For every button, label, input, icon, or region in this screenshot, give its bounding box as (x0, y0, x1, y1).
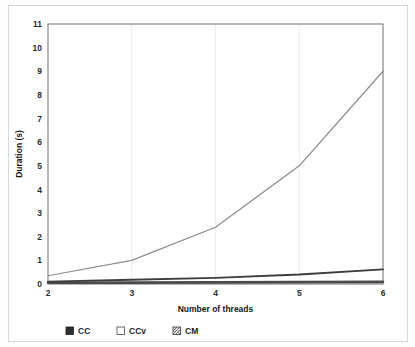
y-tick-7: 7 (37, 114, 42, 124)
y-tick-6: 6 (37, 137, 42, 147)
x-tick-4: 4 (213, 288, 218, 298)
series-line-cc (48, 282, 383, 283)
y-axis-ticks: 11 10 9 8 7 6 5 4 3 2 1 0 (33, 19, 43, 289)
legend-label-cm: CM (185, 326, 198, 336)
x-axis-title: Number of threads (178, 304, 254, 314)
y-tick-2: 2 (37, 232, 42, 242)
figure-container: 11 10 9 8 7 6 5 4 3 2 1 0 Duration (s) 2… (0, 0, 415, 347)
line-chart: 11 10 9 8 7 6 5 4 3 2 1 0 Duration (s) 2… (0, 0, 415, 347)
y-tick-8: 8 (37, 90, 42, 100)
y-tick-10: 10 (33, 43, 43, 53)
y-tick-5: 5 (37, 161, 42, 171)
y-tick-3: 3 (37, 208, 42, 218)
x-tick-2: 2 (46, 288, 51, 298)
legend-label-ccv: CCv (129, 326, 146, 336)
hatched-square-icon (173, 327, 181, 335)
y-tick-0: 0 (37, 279, 42, 289)
y-tick-1: 1 (37, 255, 42, 265)
x-tick-3: 3 (129, 288, 134, 298)
y-tick-4: 4 (37, 185, 42, 195)
y-tick-9: 9 (37, 66, 42, 76)
empty-square-icon (117, 327, 125, 335)
legend-label-cc: CC (78, 326, 90, 336)
x-axis-ticks: 2 3 4 5 6 (46, 288, 386, 298)
x-tick-5: 5 (297, 288, 302, 298)
filled-square-icon (66, 327, 74, 335)
y-tick-11: 11 (33, 19, 42, 29)
x-tick-6: 6 (381, 288, 386, 298)
legend: CC CCv CM (66, 326, 198, 336)
y-axis-title: Duration (s) (14, 130, 24, 178)
